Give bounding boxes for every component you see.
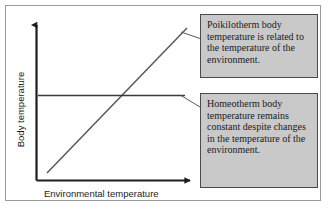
callout-poikilotherm: Poikilotherm body temperature is related… (200, 14, 318, 78)
homeotherm-leader-line (181, 96, 200, 108)
poikilotherm-leader-line (181, 32, 200, 39)
poikilotherm-line (47, 28, 187, 173)
callout-homeotherm: Homeotherm body temperature remains cons… (200, 93, 318, 188)
x-axis-label: Environmental temperature (44, 188, 159, 199)
y-axis-label: Body temperature (15, 60, 26, 160)
thermoregulation-figure: Body temperature Environmental temperatu… (0, 0, 330, 214)
